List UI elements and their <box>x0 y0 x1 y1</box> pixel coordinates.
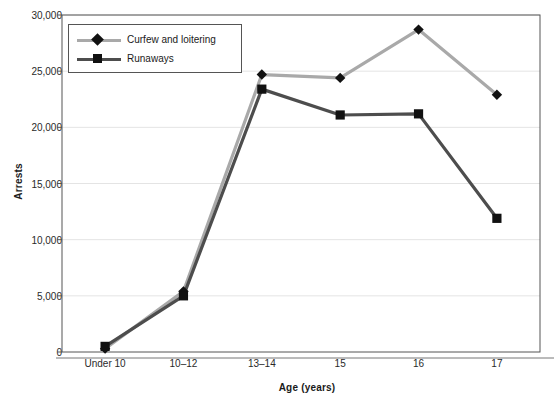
x-axis-tick-label: 16 <box>413 358 424 369</box>
square-marker-icon <box>336 110 345 119</box>
series-line-1 <box>105 30 497 349</box>
x-axis-tick-label: 10–12 <box>170 358 198 369</box>
x-axis-tick-label: 13–14 <box>248 358 276 369</box>
square-marker-icon <box>100 342 109 351</box>
x-axis-tick-labels: Under 1010–1213–14151617 <box>0 358 556 378</box>
line-chart: Arrests 05,00010,00015,00020,00025,00030… <box>0 0 556 406</box>
legend-item-runaways: Runaways <box>77 49 241 68</box>
x-axis-title: Age (years) <box>62 382 552 393</box>
x-axis-tick-label: 17 <box>491 358 502 369</box>
x-axis-tick-label: Under 10 <box>85 358 126 369</box>
square-marker-icon <box>492 214 501 223</box>
diamond-marker-icon <box>91 33 104 46</box>
legend-swatch-curfew-and-loitering <box>77 33 121 47</box>
chart-legend: Curfew and loitering Runaways <box>68 24 242 73</box>
legend-label: Runaways <box>127 53 174 64</box>
legend-label: Curfew and loitering <box>127 34 216 45</box>
square-marker-icon <box>179 291 188 300</box>
square-marker-icon <box>257 85 266 94</box>
legend-swatch-runaways <box>77 52 121 66</box>
square-marker-icon <box>93 54 102 63</box>
legend-item-curfew-and-loitering: Curfew and loitering <box>77 30 241 49</box>
x-axis-tick-label: 15 <box>335 358 346 369</box>
square-marker-icon <box>414 109 423 118</box>
